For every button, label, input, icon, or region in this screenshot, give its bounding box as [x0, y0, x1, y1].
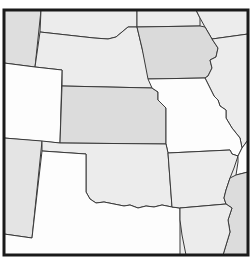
state-minnesota[interactable]: [137, 10, 200, 27]
state-kansas[interactable]: [60, 86, 166, 144]
state-louisiana[interactable]: [180, 204, 232, 255]
state-colorado[interactable]: [4, 63, 62, 143]
map-container: [0, 0, 252, 263]
state-wyoming[interactable]: [4, 10, 41, 67]
state-iowa[interactable]: [137, 26, 218, 79]
us-central-states-map: [0, 0, 252, 263]
